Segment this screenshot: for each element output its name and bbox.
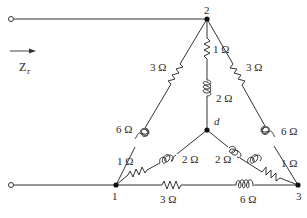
label-l-2-3: 6 Ω xyxy=(281,126,297,137)
node-1-label: 1 xyxy=(112,191,118,202)
label-r-3-low: 1 Ω xyxy=(281,158,297,169)
label-r-1-low: 1 Ω xyxy=(117,156,133,167)
zt-sub: T xyxy=(26,68,30,76)
node-3-dot xyxy=(295,182,300,187)
node-2-dot xyxy=(204,16,209,21)
label-r-2-1: 3 Ω xyxy=(150,62,166,73)
node-d-dot xyxy=(204,127,209,132)
input-terminal-bottom xyxy=(9,183,14,188)
label-l-3-d: 2 Ω xyxy=(215,154,231,165)
circuit-diagram: ZT 2 1 3 d 3 Ω 6 Ω 1 Ω 1 Ω 2 Ω 3 Ω 6 Ω 1… xyxy=(0,0,307,218)
label-l-2-d: 2 Ω xyxy=(216,93,232,104)
node-d-label: d xyxy=(214,116,220,127)
node-2-label: 2 xyxy=(204,5,210,16)
label-l-2-1: 6 Ω xyxy=(116,124,132,135)
node-3-label: 3 xyxy=(296,191,302,202)
input-impedance-label: ZT xyxy=(19,61,30,76)
circuit-wiring xyxy=(0,0,307,218)
label-r-2-3: 3 Ω xyxy=(246,62,262,73)
label-r-1-3: 3 Ω xyxy=(160,194,176,205)
label-r-2-d: 1 Ω xyxy=(213,44,229,55)
input-terminal-top xyxy=(9,17,14,22)
label-l-1-3: 6 Ω xyxy=(240,194,256,205)
label-l-1-d: 2 Ω xyxy=(182,154,198,165)
impedance-arrow-icon xyxy=(10,49,36,54)
node-1-dot xyxy=(113,182,118,187)
